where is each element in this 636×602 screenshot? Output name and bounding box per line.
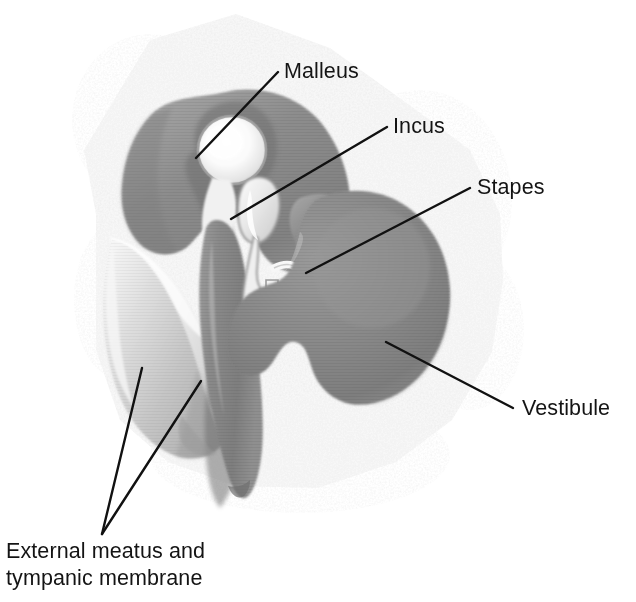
label-vestibule: Vestibule <box>522 396 610 420</box>
label-external-meatus-line1: External meatus and <box>6 539 205 563</box>
label-tympanic-membrane-line2: tympanic membrane <box>6 566 202 590</box>
ear-anatomy-figure: Malleus Incus Stapes Vestibule External … <box>0 0 636 602</box>
label-malleus: Malleus <box>284 59 359 83</box>
label-incus: Incus <box>393 114 445 138</box>
ear-anatomy-illustration: Malleus Incus Stapes Vestibule External … <box>0 0 636 602</box>
label-stapes: Stapes <box>477 175 545 199</box>
